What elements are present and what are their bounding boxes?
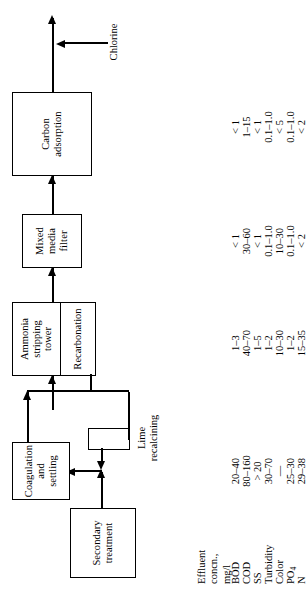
recarbonation-label: Recarbonation — [72, 308, 84, 369]
table-header-line1: Effluent — [196, 550, 207, 584]
recalcining-loop-vline — [27, 390, 129, 392]
secondary-treatment-label-line2: treatment — [103, 523, 114, 564]
row-label-color: Color — [274, 545, 285, 584]
cell: 1–2 — [263, 314, 274, 372]
cell: 30–60 — [241, 212, 252, 270]
cell: > 20 — [252, 442, 263, 500]
cell: 0.1–1.0 — [285, 212, 296, 270]
cell: 20–40 — [230, 442, 241, 500]
cell: 25–30 — [285, 442, 296, 500]
cell: < 1 — [230, 98, 241, 156]
cell: 10–30 — [274, 314, 285, 372]
coagulation-label-line3: settling — [47, 455, 58, 487]
effluent-concentration-table: Effluent concn., mg/l BOD COD SS Turbidi… — [196, 0, 306, 590]
table-header-line2: concn., — [208, 554, 219, 584]
table-row-labels: BOD COD SS Turbidity Color PO4 N — [230, 545, 306, 584]
cell: < 2 — [296, 98, 306, 156]
coagulation-label-line2: and — [35, 463, 46, 478]
row-label-po4: PO4 — [285, 545, 296, 584]
filter-to-carbon-arrow — [48, 175, 56, 184]
coagulation-outlet-arrow — [23, 391, 31, 400]
cell: < 5 — [274, 98, 285, 156]
row-label-turbidity: Turbidity — [263, 545, 274, 584]
process-box-secondary-treatment: Secondary treatment — [70, 508, 136, 578]
carbon-adsorption-label-line2: adsorption — [52, 111, 63, 156]
row-label-color-text: Color — [274, 560, 285, 584]
table-column-recarbonation: 1–3 40–70 1–5 1–2 10–30 1–2 15–35 — [230, 314, 306, 372]
cell: 0.1–1.0 — [285, 98, 296, 156]
table-column-mixed-media-filter: < 1 30–60 < 1 0.1–1.0 10–30 0.1–1.0 < 2 — [230, 212, 306, 270]
process-box-ammonia-stripping-recarbonation: Ammonia stripping tower Recarbonation — [12, 302, 96, 376]
cell: 0.1–1.0 — [263, 212, 274, 270]
lime-recalcining-caption-line2: recalcining — [148, 415, 159, 462]
cell: 40–70 — [241, 314, 252, 372]
recarbonation-segment: Recarbonation — [61, 303, 95, 375]
cell: 10–30 — [274, 212, 285, 270]
process-flow-diagram: Primary lime Secondary treatment Coagula… — [0, 0, 306, 590]
ammonia-label-line1: Ammonia — [19, 318, 30, 360]
process-box-lime-recalcining — [88, 428, 130, 450]
cell: < 1 — [230, 212, 241, 270]
row-label-cod-text: COD — [241, 562, 252, 584]
cell: 30–70 — [263, 442, 274, 500]
cell: < 2 — [296, 212, 306, 270]
cell: 0.1–1.0 — [263, 98, 274, 156]
cell: 1–2 — [285, 314, 296, 372]
chlorine-feed-vline — [62, 42, 108, 44]
ammonia-label-line2: stripping — [31, 320, 42, 357]
ammonia-stripping-tower-segment: Ammonia stripping tower — [13, 303, 61, 375]
chlorine-label-text: Chlorine — [108, 24, 119, 61]
row-label-po4-text: PO — [285, 571, 296, 584]
row-label-n-text: N — [296, 576, 306, 584]
mixed-media-filter-label-line1: Mixed — [34, 227, 45, 255]
row-label-bod: BOD — [230, 545, 241, 584]
recalcining-to-junction-arrow — [97, 461, 105, 470]
lime-recalcining-caption: Lime recalcining — [136, 410, 160, 466]
cell: 29–38 — [296, 442, 306, 500]
row-label-n: N — [296, 545, 306, 584]
mixed-media-filter-label-line3: filter — [58, 231, 69, 252]
lime-recalcining-caption-line1: Lime — [136, 427, 147, 449]
ammonia-label-line3: tower — [42, 327, 53, 351]
row-label-bod-text: BOD — [230, 562, 241, 584]
process-box-coagulation-settling: Coagulation and settling — [12, 442, 70, 500]
final-effluent-arrow — [48, 15, 56, 24]
recalcining-to-junction-line — [101, 448, 103, 462]
row-label-po4-subscript: 4 — [289, 567, 298, 571]
recalcining-loop-hline — [128, 392, 130, 440]
coagulation-to-ammonia-arrow — [48, 375, 56, 384]
table-header: Effluent concn., mg/l — [196, 550, 233, 584]
mixed-media-filter-label-line2: media — [46, 228, 57, 254]
process-box-mixed-media-filter: Mixed media filter — [22, 214, 82, 268]
secondary-treatment-label-line1: Secondary — [91, 520, 102, 565]
rotated-figure-stage: Primary lime Secondary treatment Coagula… — [0, 0, 306, 590]
cell: 1–3 — [230, 314, 241, 372]
row-label-ss-text: SS — [252, 572, 263, 584]
process-box-carbon-adsorption: Carbon adsorption — [12, 92, 92, 176]
recarbonation-recycle-line — [90, 374, 92, 392]
table-column-carbon-adsorption: < 1 1–15 < 1 0.1–1.0 < 5 0.1–1.0 < 2 — [230, 98, 306, 156]
cell: < 1 — [252, 98, 263, 156]
row-label-turbidity-text: Turbidity — [263, 545, 274, 584]
cell: — — [274, 442, 285, 500]
cell: < 1 — [252, 212, 263, 270]
cell: 1–15 — [241, 98, 252, 156]
row-label-cod: COD — [241, 545, 252, 584]
cell: 15–35 — [296, 314, 306, 372]
coagulation-label-line1: Coagulation — [23, 445, 34, 497]
cell: 80–160 — [241, 442, 252, 500]
table-column-coagulation: 20–40 80–160 > 20 30–70 — 25–30 29–38 — [230, 442, 306, 500]
cell: 1–5 — [252, 314, 263, 372]
chlorine-label: Chlorine — [108, 12, 120, 72]
recarbonation-to-filter-arrow — [48, 267, 56, 276]
carbon-adsorption-label-line1: Carbon — [40, 118, 51, 150]
carbon-to-effluent-line — [52, 18, 54, 92]
chlorine-feed-arrow — [56, 40, 65, 48]
row-label-ss: SS — [252, 545, 263, 584]
